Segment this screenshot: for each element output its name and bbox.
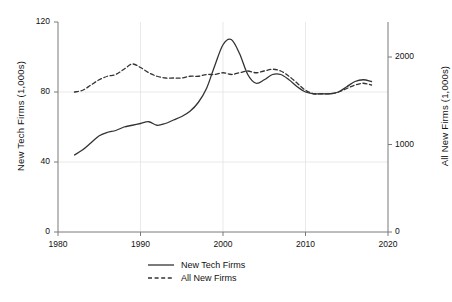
y-axis-left-title: New Tech Firms (1,000s) bbox=[14, 0, 28, 232]
legend-label: All New Firms bbox=[181, 273, 237, 283]
dashed-line-icon bbox=[148, 273, 174, 283]
chart-figure: New Tech Firms (1,000s) All New Firms (1… bbox=[0, 0, 452, 302]
y-axis-right-title: All New Firms (1,000s) bbox=[438, 0, 452, 232]
y-axis-left-tick-label: 40 bbox=[10, 156, 50, 166]
gridlines bbox=[58, 22, 388, 232]
legend-item: All New Firms bbox=[148, 271, 348, 284]
x-axis-tick-label: 1990 bbox=[116, 239, 166, 249]
chart-plot-area bbox=[0, 0, 452, 302]
legend-item: New Tech Firms bbox=[148, 258, 348, 271]
x-axis-tick-label: 2010 bbox=[281, 239, 331, 249]
legend-label: New Tech Firms bbox=[181, 260, 245, 270]
y-axis-right-tick-label: 1000 bbox=[395, 139, 435, 149]
y-axis-right-tick-label: 0 bbox=[395, 226, 435, 236]
y-axis-left-tick-label: 120 bbox=[10, 16, 50, 26]
x-axis-tick-label: 1980 bbox=[33, 239, 83, 249]
y-axis-right-tick-label: 2000 bbox=[395, 51, 435, 61]
x-axis-tick-label: 2020 bbox=[363, 239, 413, 249]
solid-line-icon bbox=[148, 260, 174, 270]
x-axis-tick-label: 2000 bbox=[198, 239, 248, 249]
y-axis-left-tick-label: 0 bbox=[10, 226, 50, 236]
y-axis-left-tick-label: 80 bbox=[10, 86, 50, 96]
chart-legend: New Tech FirmsAll New Firms bbox=[148, 258, 348, 284]
